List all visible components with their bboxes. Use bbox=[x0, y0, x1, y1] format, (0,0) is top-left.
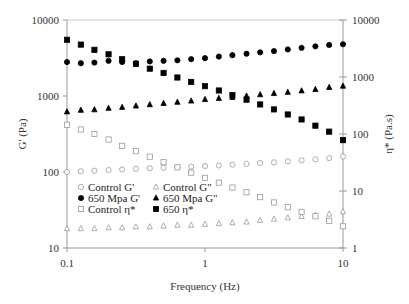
data-point bbox=[78, 42, 83, 47]
data-point bbox=[244, 51, 249, 56]
data-point bbox=[299, 209, 304, 214]
data-point bbox=[161, 160, 166, 165]
data-point bbox=[299, 45, 304, 50]
data-point bbox=[175, 222, 180, 227]
data-point bbox=[120, 143, 125, 148]
data-point bbox=[299, 88, 304, 93]
data-point bbox=[285, 112, 290, 117]
x-tick-label: 1 bbox=[202, 257, 208, 269]
legend: Control G'650 Mpa G'Control η*Control G"… bbox=[78, 181, 217, 215]
data-point bbox=[271, 48, 276, 53]
data-point bbox=[78, 107, 83, 112]
data-point bbox=[64, 225, 69, 230]
data-point bbox=[161, 70, 166, 75]
legend-marker bbox=[153, 184, 158, 189]
x-axis-title: Frequency (Hz) bbox=[170, 280, 240, 293]
data-point bbox=[161, 165, 166, 170]
data-point bbox=[327, 156, 332, 161]
data-point bbox=[313, 123, 318, 128]
data-point bbox=[92, 131, 97, 136]
data-point bbox=[133, 224, 138, 229]
y2-tick-label: 10000 bbox=[352, 14, 380, 26]
data-point bbox=[92, 60, 97, 65]
data-point bbox=[189, 222, 194, 227]
data-point bbox=[258, 102, 263, 107]
data-point bbox=[244, 161, 249, 166]
data-point bbox=[313, 214, 318, 219]
data-point bbox=[161, 223, 166, 228]
data-point bbox=[133, 103, 138, 108]
data-point bbox=[78, 61, 83, 66]
data-point bbox=[258, 160, 263, 165]
data-point bbox=[285, 205, 290, 210]
y2-tick-label: 100 bbox=[352, 128, 369, 140]
y-tick-label: 10 bbox=[48, 242, 60, 254]
data-point bbox=[106, 137, 111, 142]
data-point bbox=[120, 225, 125, 230]
data-point bbox=[133, 149, 138, 154]
data-point bbox=[271, 160, 276, 165]
data-point bbox=[202, 221, 207, 226]
legend-label: Control η* bbox=[88, 203, 136, 215]
data-point bbox=[175, 99, 180, 104]
data-point bbox=[340, 83, 345, 88]
data-point bbox=[230, 185, 235, 190]
data-point bbox=[313, 44, 318, 49]
y-tick-label: 1000 bbox=[37, 90, 60, 102]
data-point bbox=[92, 168, 97, 173]
data-point bbox=[106, 52, 111, 57]
data-point bbox=[202, 56, 207, 61]
data-point bbox=[64, 37, 69, 42]
y-tick-label: 100 bbox=[43, 166, 60, 178]
data-point bbox=[133, 166, 138, 171]
data-point bbox=[92, 225, 97, 230]
series-control-g- bbox=[64, 154, 345, 175]
data-point bbox=[313, 157, 318, 162]
data-point bbox=[175, 165, 180, 170]
series-650- bbox=[64, 37, 345, 143]
y2-tick-label: 1 bbox=[352, 242, 358, 254]
data-point bbox=[161, 58, 166, 63]
data-point bbox=[340, 209, 345, 214]
y-axis-title: G' (Pa) bbox=[16, 118, 29, 149]
data-point bbox=[230, 53, 235, 58]
data-point bbox=[258, 50, 263, 55]
data-point bbox=[64, 122, 69, 127]
data-point bbox=[189, 164, 194, 169]
data-point bbox=[147, 66, 152, 71]
data-point bbox=[147, 154, 152, 159]
y-tick-label: 10000 bbox=[32, 14, 60, 26]
rheology-chart: 101001000100001101001000100000.1110Frequ… bbox=[0, 0, 409, 304]
data-point bbox=[327, 129, 332, 134]
legend-marker bbox=[78, 195, 83, 200]
data-point bbox=[202, 84, 207, 89]
data-point bbox=[230, 93, 235, 98]
data-point bbox=[147, 166, 152, 171]
data-point bbox=[258, 217, 263, 222]
data-point bbox=[202, 96, 207, 101]
data-point bbox=[271, 200, 276, 205]
legend-label: 650 η* bbox=[163, 203, 194, 215]
data-point bbox=[64, 109, 69, 114]
data-point bbox=[120, 167, 125, 172]
legend-marker bbox=[78, 184, 83, 189]
data-point bbox=[106, 105, 111, 110]
data-point bbox=[258, 92, 263, 97]
data-point bbox=[244, 97, 249, 102]
data-point bbox=[175, 75, 180, 80]
data-point bbox=[285, 215, 290, 220]
data-point bbox=[340, 42, 345, 47]
data-point bbox=[64, 169, 69, 174]
data-point bbox=[216, 220, 221, 225]
data-point bbox=[230, 220, 235, 225]
data-point bbox=[175, 58, 180, 63]
data-point bbox=[327, 218, 332, 223]
data-point bbox=[147, 102, 152, 107]
data-point bbox=[285, 47, 290, 52]
data-point bbox=[216, 180, 221, 185]
legend-marker bbox=[153, 195, 158, 200]
data-point bbox=[299, 117, 304, 122]
data-point bbox=[340, 138, 345, 143]
data-point bbox=[258, 195, 263, 200]
data-point bbox=[299, 158, 304, 163]
